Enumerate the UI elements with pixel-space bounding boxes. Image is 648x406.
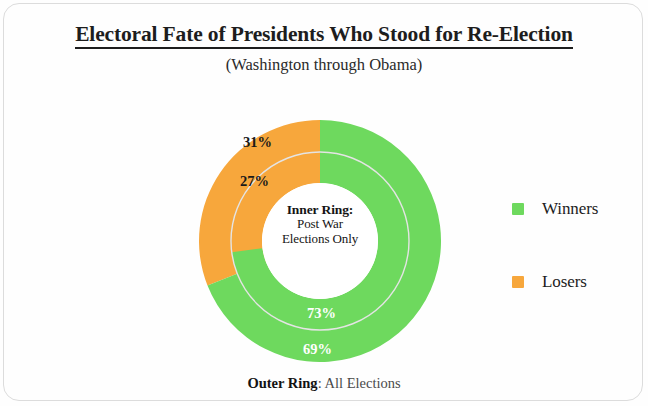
legend-swatch-losers-icon [512,276,524,288]
chart-header: Electoral Fate of Presidents Who Stood f… [0,22,648,74]
outer-ring-caption-bold: Outer Ring [247,375,317,391]
chart-page: Electoral Fate of Presidents Who Stood f… [0,0,648,406]
chart-subtitle: (Washington through Obama) [0,56,648,74]
outer-ring-caption: Outer Ring: All Elections [0,375,648,392]
legend-item-winners[interactable]: Winners [512,198,632,220]
chart-legend: Winners Losers [512,198,632,293]
legend-item-losers[interactable]: Losers [512,271,632,293]
legend-label-winners: Winners [542,199,598,219]
donut-svg [199,120,441,362]
outer-ring-caption-rest: : All Elections [318,375,401,391]
legend-label-losers: Losers [542,272,587,292]
page-title: Electoral Fate of Presidents Who Stood f… [75,22,573,49]
nested-donut-chart [199,120,441,362]
legend-swatch-winners-icon [512,203,524,215]
donut-center-hole [262,183,378,299]
